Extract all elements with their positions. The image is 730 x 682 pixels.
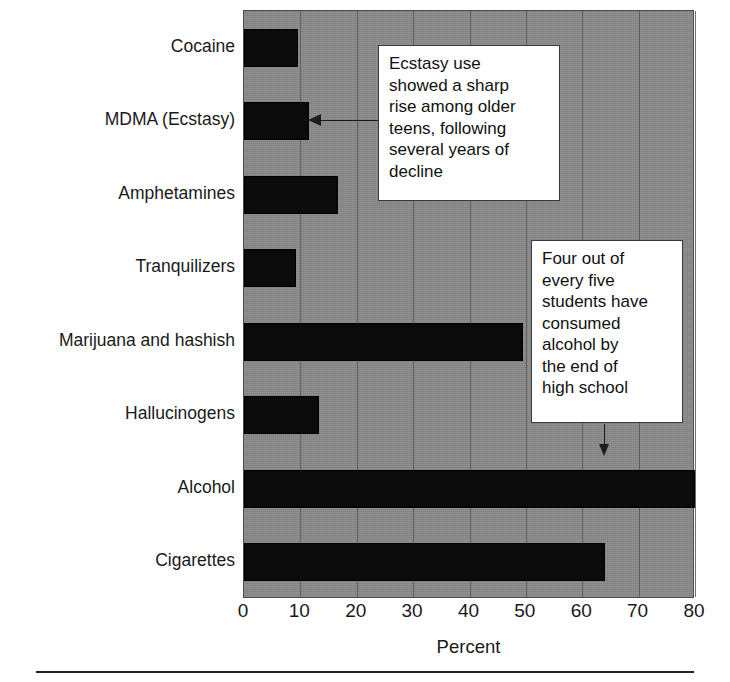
x-tick-70: 70 xyxy=(608,600,668,622)
category-axis-labels: CocaineMDMA (Ecstasy)AmphetaminesTranqui… xyxy=(0,0,235,682)
bottom-divider xyxy=(36,671,694,673)
ecstasy-callout-box: Ecstasy use showed a sharp rise among ol… xyxy=(378,45,560,201)
x-axis-tick-labels: 01020304050607080 xyxy=(0,600,730,630)
x-tick-0: 0 xyxy=(213,600,273,622)
category-label-amphetamines: Amphetamines xyxy=(0,184,235,203)
bar-alcohol xyxy=(244,470,695,508)
category-label-alcohol: Alcohol xyxy=(0,478,235,497)
x-tick-40: 40 xyxy=(439,600,499,622)
x-tick-30: 30 xyxy=(382,600,442,622)
x-axis-title: Percent xyxy=(243,636,694,658)
bar-marijuana-and-hashish xyxy=(244,323,523,361)
bar-cocaine xyxy=(244,29,298,67)
x-tick-20: 20 xyxy=(326,600,386,622)
category-label-marijuana-and-hashish: Marijuana and hashish xyxy=(0,331,235,350)
x-tick-60: 60 xyxy=(551,600,611,622)
bar-hallucinogens xyxy=(244,396,319,434)
category-label-mdma-ecstasy: MDMA (Ecstasy) xyxy=(0,110,235,129)
bar-cigarettes xyxy=(244,543,605,581)
category-label-tranquilizers: Tranquilizers xyxy=(0,257,235,276)
bar-chart-figure: CocaineMDMA (Ecstasy)AmphetaminesTranqui… xyxy=(0,0,730,682)
category-label-cigarettes: Cigarettes xyxy=(0,551,235,570)
bar-amphetamines xyxy=(244,176,338,214)
gridline-20 xyxy=(357,11,358,597)
gridline-80 xyxy=(695,11,696,597)
category-label-hallucinogens: Hallucinogens xyxy=(0,404,235,423)
category-label-cocaine: Cocaine xyxy=(0,37,235,56)
gridline-10 xyxy=(300,11,301,597)
alcohol-callout-box: Four out of every five students have con… xyxy=(531,240,683,423)
x-tick-50: 50 xyxy=(495,600,555,622)
x-tick-80: 80 xyxy=(664,600,724,622)
bar-tranquilizers xyxy=(244,249,296,287)
x-tick-10: 10 xyxy=(269,600,329,622)
bar-mdma-ecstasy xyxy=(244,102,309,140)
